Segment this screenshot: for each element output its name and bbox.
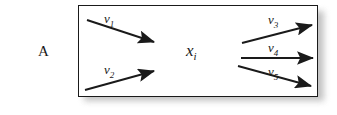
flow-label-v5-subscript: 5 [274, 72, 279, 82]
flow-label-v1: v1 [104, 12, 114, 29]
arrow-v1 [87, 20, 154, 42]
flow-diagram: A xi v1 v2 v3 v4 v5 [0, 0, 337, 115]
node-label-subscript: i [194, 50, 197, 62]
node-label-xi: xi [186, 42, 197, 62]
flow-label-v1-subscript: 1 [110, 19, 115, 29]
flow-label-v4-subscript: 4 [274, 48, 279, 58]
flow-arrows [0, 0, 337, 115]
node-label-base: x [186, 41, 194, 60]
flow-label-v5: v5 [268, 65, 278, 82]
flow-label-v4: v4 [268, 41, 278, 58]
arrow-v2 [85, 71, 154, 90]
flow-label-v2-subscript: 2 [110, 70, 115, 80]
flow-label-v3: v3 [268, 13, 278, 30]
flow-label-v2: v2 [104, 63, 114, 80]
flow-label-v3-subscript: 3 [274, 20, 279, 30]
